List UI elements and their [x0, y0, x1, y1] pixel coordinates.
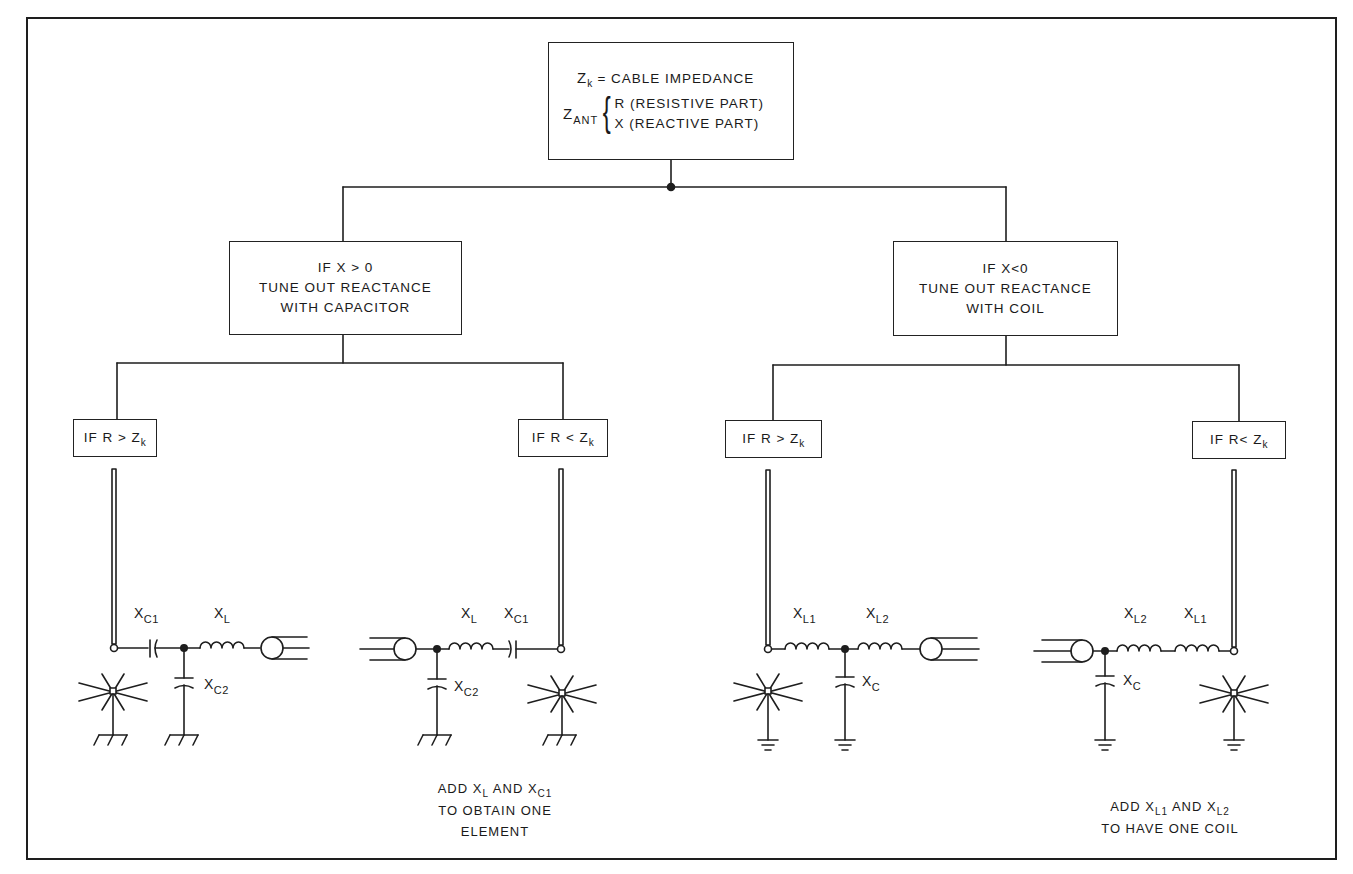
circuit-coil-r-lt-zk [1034, 470, 1268, 750]
ground-earth-icon [1224, 740, 1244, 750]
branch-box-coil: IF X<0 TUNE OUT REACTANCE WITH COIL [893, 241, 1118, 336]
label-xl: XL [461, 605, 477, 621]
branch-box-capacitor: IF X > 0 TUNE OUT REACTANCE WITH CAPACIT… [229, 241, 462, 335]
note-combine-xl-xc1: ADD XL AND XC1 TO OBTAIN ONE ELEMENT [420, 778, 570, 842]
circuit-coil-r-gt-zk [734, 470, 979, 750]
label-xc: XC [862, 673, 880, 689]
antenna-rod [1232, 470, 1236, 647]
feed-point [558, 646, 565, 653]
coax-connector-icon [1034, 640, 1093, 662]
inductor-icon [1117, 645, 1161, 651]
inductor-icon [1175, 645, 1219, 651]
coax-connector-icon [920, 638, 979, 660]
inductor-icon [200, 642, 244, 648]
label-xl: XL [214, 605, 230, 621]
inductor-icon [858, 643, 902, 649]
label-xc2: XC2 [204, 676, 229, 692]
antenna-icon [528, 676, 596, 735]
label-xc1: XC1 [504, 605, 529, 621]
junction-dot [668, 184, 675, 191]
antenna-rod [112, 469, 116, 644]
inductor-icon [785, 643, 829, 649]
antenna-icon [79, 674, 147, 735]
resistive-part-label: R (RESISTIVE PART) [615, 94, 765, 114]
coax-connector-icon [360, 638, 416, 660]
antenna-icon [1200, 676, 1268, 740]
capacitor-icon [509, 641, 516, 658]
ground-earth-icon [758, 740, 778, 750]
label-xl2: XL2 [866, 605, 889, 621]
label-xc2: XC2 [454, 678, 479, 694]
label-xl1: XL1 [1184, 605, 1207, 621]
ground-earth-icon [1095, 740, 1115, 750]
ground-earth-icon [835, 740, 855, 750]
condition-box-cap-r-lt-zk: IF R < Zk [518, 419, 608, 457]
feed-point [765, 646, 772, 653]
circuit-cap-r-gt-zk [79, 469, 309, 745]
antenna-icon [734, 674, 802, 740]
condition-box-coil-r-lt-zk: IF R< Zk [1192, 421, 1286, 459]
inductor-icon [449, 643, 493, 649]
label-xl2: XL2 [1124, 605, 1147, 621]
ground-hatched-icon [418, 735, 451, 745]
antenna-rod [766, 470, 770, 645]
reactive-part-label: X (REACTIVE PART) [615, 114, 765, 134]
curly-brace-icon: { [603, 92, 612, 132]
feed-point [1231, 648, 1238, 655]
cable-impedance-definition: Zk = CABLE IMPEDANCE [569, 68, 754, 90]
note-combine-xl1-xl2: ADD XL1 AND XL2 TO HAVE ONE COIL [1090, 796, 1250, 839]
ground-hatched-icon [543, 735, 576, 745]
ground-hatched-icon [94, 735, 127, 745]
condition-box-cap-r-gt-zk: IF R > Zk [73, 419, 157, 457]
label-xl1: XL1 [793, 605, 816, 621]
antenna-impedance-definition: ZANT { R (RESISTIVE PART) X (REACTIVE PA… [563, 94, 764, 134]
circuit-cap-r-lt-zk [360, 469, 596, 745]
coax-connector-icon [261, 637, 309, 659]
antenna-rod [559, 469, 563, 645]
label-xc: XC [1123, 672, 1141, 688]
label-xc1: XC1 [134, 605, 159, 621]
ground-hatched-icon [165, 735, 198, 745]
condition-box-coil-r-gt-zk: IF R > Zk [725, 420, 822, 458]
feed-point [111, 645, 118, 652]
root-definition-box: Zk = CABLE IMPEDANCE ZANT { R (RESISTIVE… [548, 42, 794, 160]
